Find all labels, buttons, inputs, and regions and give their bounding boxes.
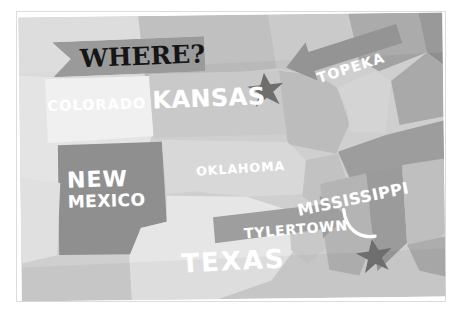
state-shape-arizona <box>20 177 61 263</box>
state-label-texas: TEXAS <box>181 246 286 277</box>
poster-page: COLORADO KANSAS NEW MEXICO OKLAHOMA TEXA… <box>0 0 462 313</box>
state-label-kansas: KANSAS <box>152 84 266 112</box>
state-label-new-mexico-line2: MEXICO <box>68 191 146 210</box>
state-label-new-mexico: NEW MEXICO <box>67 167 146 210</box>
where-banner: WHERE? <box>52 36 205 77</box>
map-canvas: COLORADO KANSAS NEW MEXICO OKLAHOMA TEXA… <box>18 12 445 301</box>
state-label-new-mexico-line1: NEW <box>67 167 146 191</box>
poster-title: WHERE? <box>79 39 205 73</box>
state-label-colorado: COLORADO <box>47 96 146 113</box>
